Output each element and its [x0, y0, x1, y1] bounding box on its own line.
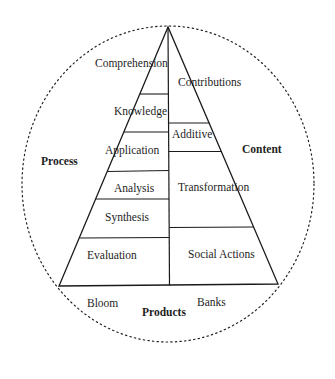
- products-title: Products: [142, 306, 186, 318]
- process-title: Process: [41, 155, 78, 167]
- level-label-contributions: Contributions: [178, 76, 241, 88]
- level-label-evaluation: Evaluation: [87, 249, 137, 261]
- left-divider-5: [80, 238, 170, 239]
- level-label-comprehension: Comprehension: [95, 57, 168, 69]
- level-label-application: Application: [105, 144, 159, 156]
- center-divider: [168, 27, 170, 286]
- left-divider-3: [108, 171, 169, 172]
- level-label-synthesis: Synthesis: [105, 211, 149, 223]
- footer-banks: Banks: [197, 296, 226, 308]
- level-label-social-actions: Social Actions: [188, 248, 255, 260]
- level-label-transformation: Transformation: [178, 181, 249, 193]
- footer-bloom: Bloom: [87, 297, 118, 309]
- level-label-analysis: Analysis: [114, 182, 154, 194]
- right-divider-3: [169, 227, 253, 228]
- content-title: Content: [242, 143, 282, 155]
- level-label-additive: Additive: [172, 128, 212, 140]
- level-label-knowledge: Knowledge: [114, 105, 167, 117]
